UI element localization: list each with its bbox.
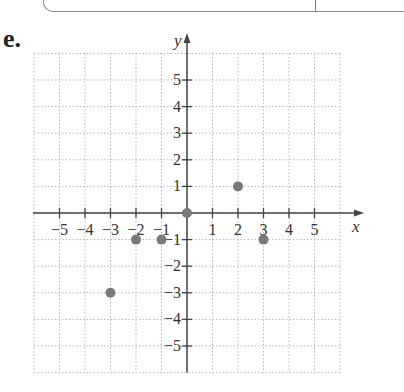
y-tick-label: −5 [164, 337, 181, 354]
data-point [157, 235, 167, 245]
x-tick-label: 1 [209, 221, 217, 238]
data-point [106, 288, 116, 298]
x-tick-label: 5 [311, 221, 319, 238]
x-tick-label: 4 [285, 221, 293, 238]
y-tick-label: −4 [164, 310, 181, 327]
y-axis-arrow-icon [184, 33, 191, 43]
data-point [259, 235, 269, 245]
x-axis-label: x [351, 217, 360, 236]
x-tick-label: −3 [102, 221, 119, 238]
data-point [233, 181, 243, 191]
y-tick-label: 5 [173, 71, 181, 88]
y-axis-label: y [172, 31, 182, 50]
y-tick-label: −3 [164, 284, 181, 301]
y-tick-label: 1 [173, 177, 181, 194]
y-tick-label: −2 [164, 257, 181, 274]
y-tick-label: 3 [173, 124, 181, 141]
x-tick-label: 2 [234, 221, 242, 238]
x-tick-label: −4 [76, 221, 93, 238]
x-tick-label: −5 [51, 221, 68, 238]
y-tick-label: 4 [173, 98, 181, 115]
data-point [182, 208, 192, 218]
data-point [131, 235, 141, 245]
y-tick-label: −1 [164, 231, 181, 248]
y-tick-label: 2 [173, 151, 181, 168]
x-axis-arrow-icon [354, 210, 364, 217]
